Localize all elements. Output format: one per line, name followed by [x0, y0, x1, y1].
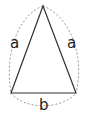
base-label: b	[39, 98, 49, 113]
left-side-label: a	[10, 36, 19, 51]
right-side-label: a	[67, 36, 76, 51]
